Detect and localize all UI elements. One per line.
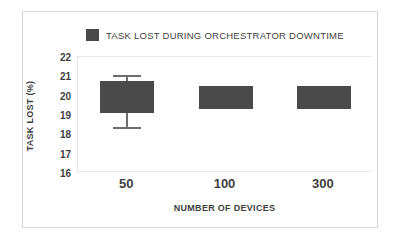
plot-area: 22212019181716 [77, 56, 372, 172]
x-axis-tick-label: 100 [214, 176, 236, 191]
y-axis-title: TASK LOST (%) [22, 60, 38, 172]
legend-square-icon [86, 29, 99, 41]
plot-inner: 22212019181716 [78, 57, 372, 171]
y-axis-tick-label: 18 [60, 129, 71, 140]
chart-legend: TASK LOST DURING ORCHESTRATOR DOWNTIME [86, 26, 344, 44]
chart-figure: TASK LOST DURING ORCHESTRATOR DOWNTIME T… [0, 0, 404, 241]
y-axis-tick-label: 17 [60, 148, 71, 159]
x-axis-tick-label: 50 [119, 176, 133, 191]
x-axis-tick-label: 300 [312, 176, 334, 191]
y-axis-title-text: TASK LOST (%) [25, 81, 35, 152]
y-axis-tick-label: 16 [60, 168, 71, 179]
y-axis-tick-label: 20 [60, 90, 71, 101]
y-axis-tick-label: 21 [60, 71, 71, 82]
chart-box-300 [297, 86, 351, 109]
chart-box-100 [199, 86, 253, 109]
y-axis-tick-label: 22 [60, 52, 71, 63]
error-bar-lower-cap [113, 127, 141, 129]
y-axis-tick-label: 19 [60, 110, 71, 121]
x-axis-title: NUMBER OF DEVICES [77, 203, 372, 213]
chart-box-50 [100, 81, 154, 113]
error-bar-upper-cap [113, 75, 141, 77]
legend-label: TASK LOST DURING ORCHESTRATOR DOWNTIME [106, 30, 344, 41]
